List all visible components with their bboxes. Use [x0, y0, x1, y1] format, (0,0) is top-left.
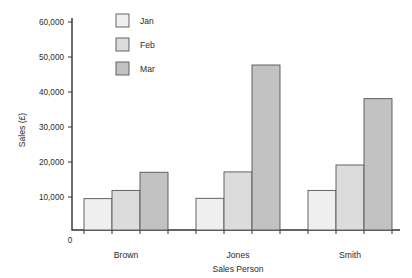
legend-label-feb: Feb: [140, 40, 155, 50]
chart-canvas: Sales (£) 60,000 50,000 40,000 30,000 20…: [0, 0, 412, 278]
y-axis-title: Sales (£): [17, 113, 27, 148]
bar-smith-feb[interactable]: [336, 165, 364, 230]
legend-label-jan: Jan: [140, 16, 154, 26]
legend-label-mar: Mar: [140, 64, 155, 74]
legend-swatch-mar: [116, 62, 129, 75]
chart-background: [0, 0, 412, 278]
y-tick-label-10000: 10,000: [39, 193, 64, 202]
bar-jones-feb[interactable]: [224, 172, 252, 230]
bar-smith-mar[interactable]: [364, 99, 392, 230]
bar-jones-mar[interactable]: [252, 65, 280, 230]
bar-chart: Sales (£) 60,000 50,000 40,000 30,000 20…: [0, 0, 412, 278]
y-tick-label-40000: 40,000: [39, 88, 64, 97]
y-tick-label-60000: 60,000: [39, 18, 64, 27]
legend-swatch-jan: [116, 14, 129, 27]
y-tick-label-30000: 30,000: [39, 123, 64, 132]
bar-brown-mar[interactable]: [140, 172, 168, 230]
y-tick-label-50000: 50,000: [39, 53, 64, 62]
x-category-label-smith: Smith: [339, 250, 361, 260]
legend-swatch-feb: [116, 38, 129, 51]
x-category-label-jones: Jones: [227, 250, 250, 260]
x-axis-title: Sales Person: [212, 264, 263, 274]
y-tick-label-zero: 0: [68, 236, 73, 245]
bar-jones-jan[interactable]: [196, 198, 224, 230]
bar-brown-jan[interactable]: [84, 199, 112, 230]
x-category-label-brown: Brown: [114, 250, 139, 260]
bar-brown-feb[interactable]: [112, 190, 140, 230]
bar-smith-jan[interactable]: [308, 190, 336, 230]
y-tick-label-20000: 20,000: [39, 158, 64, 167]
